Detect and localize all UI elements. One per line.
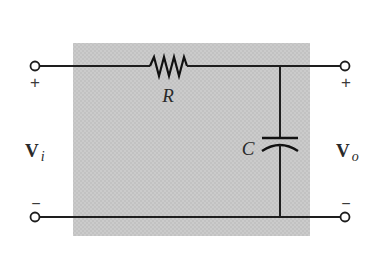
input-minus-sign: − bbox=[31, 195, 40, 212]
output-terminal-positive bbox=[341, 62, 350, 71]
input-plus-sign: + bbox=[30, 73, 40, 92]
input-terminal-negative bbox=[31, 213, 40, 222]
input-voltage-label: Vi bbox=[25, 140, 45, 164]
output-minus-sign: − bbox=[341, 195, 350, 212]
resistor-label: R bbox=[161, 85, 174, 106]
output-plus-sign: + bbox=[341, 73, 351, 92]
output-voltage-label: Vo bbox=[336, 140, 359, 164]
capacitor-label: C bbox=[242, 138, 255, 159]
network-box bbox=[73, 43, 310, 236]
input-terminal-positive bbox=[31, 62, 40, 71]
output-terminal-negative bbox=[341, 213, 350, 222]
rc-circuit-diagram: + Vi − + Vo − R C bbox=[0, 0, 375, 262]
